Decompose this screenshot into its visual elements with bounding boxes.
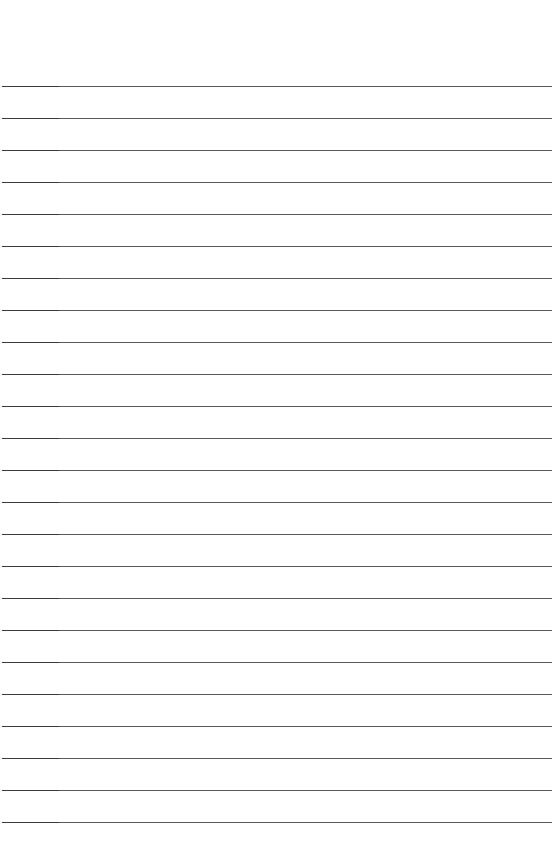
ruled-line [2,758,552,759]
ruled-line [2,278,552,279]
ruled-line [2,214,552,215]
ruled-line [2,406,552,407]
ruled-line [2,598,552,599]
ruled-line [2,822,552,823]
ruled-line [2,566,552,567]
ruled-line [2,86,552,87]
ruled-line [2,342,552,343]
ruled-line [2,246,552,247]
ruled-line [2,182,552,183]
ruled-line [2,150,552,151]
ruled-line [2,310,552,311]
ruled-line [2,438,552,439]
ruled-line [2,470,552,471]
ruled-line [2,726,552,727]
ruled-line [2,694,552,695]
ruled-line [2,662,552,663]
ruled-line [2,790,552,791]
ruled-line [2,502,552,503]
ruled-line [2,534,552,535]
ruled-line [2,630,552,631]
ruled-line [2,118,552,119]
lined-paper-page [0,0,553,842]
ruled-line [2,374,552,375]
